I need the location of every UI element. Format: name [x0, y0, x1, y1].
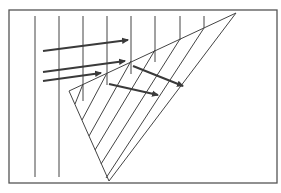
incident-arrow — [43, 40, 128, 51]
diagram-frame — [9, 10, 277, 183]
refraction-diagram — [0, 0, 281, 193]
medium-hatching — [75, 28, 204, 178]
hatch-line — [82, 73, 107, 120]
incident-rays — [43, 40, 128, 81]
refracted-arrow — [133, 66, 183, 86]
hatch-line — [75, 84, 83, 104]
